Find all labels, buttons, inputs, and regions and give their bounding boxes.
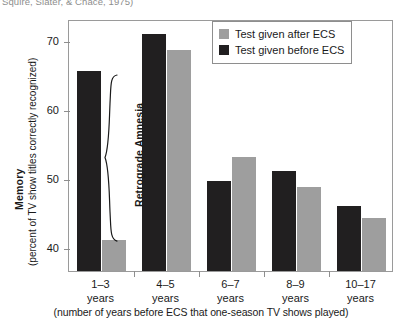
y-axis-title-sub: (percent of TV show titles correctly rec…: [28, 58, 38, 266]
x-tick-mark: [199, 271, 200, 277]
legend-item-before: Test given before ECS: [219, 42, 344, 58]
chart-legend: Test given after ECS Test given before E…: [212, 21, 352, 64]
legend-item-after: Test given after ECS: [219, 26, 344, 42]
y-tick-mark: [64, 111, 70, 112]
y-tick-mark: [64, 42, 70, 43]
x-category-label-line1: 1–3: [91, 278, 109, 290]
x-category-label-line1: 8–9: [286, 278, 304, 290]
y-tick-label: 60: [37, 104, 59, 116]
bar-after-ecs: [232, 157, 256, 271]
x-category-label-line1: 10–17: [345, 278, 376, 290]
x-tick-mark: [329, 271, 330, 277]
x-axis-title: (number of years before ECS that one-sea…: [0, 306, 402, 318]
y-axis-title-main: Memory: [14, 169, 25, 210]
annotation-label: Retrograde Amnesia: [133, 103, 145, 207]
bar-before-ecs: [207, 181, 231, 271]
bar-before-ecs: [337, 206, 361, 271]
x-category-label-line1: 6–7: [221, 278, 239, 290]
x-category-label: 10–17years: [321, 278, 401, 305]
y-tick-mark: [64, 180, 70, 181]
bar-after-ecs: [362, 218, 386, 271]
y-tick-mark: [64, 249, 70, 250]
x-tick-mark: [264, 271, 265, 277]
bar-before-ecs: [272, 171, 296, 271]
bar-after-ecs: [297, 187, 321, 271]
legend-label-after: Test given after ECS: [235, 28, 335, 40]
legend-swatch-before-icon: [219, 45, 229, 55]
legend-swatch-after-icon: [219, 29, 229, 39]
y-tick-label: 70: [37, 35, 59, 47]
bar-group: [142, 21, 191, 271]
x-category-label-line2: years: [321, 292, 401, 306]
y-tick-label: 50: [37, 173, 59, 185]
y-tick-label: 40: [37, 242, 59, 254]
retrograde-amnesia-annotation: Retrograde Amnesia: [103, 73, 149, 242]
legend-label-before: Test given before ECS: [235, 44, 344, 56]
x-category-label-line1: 4–5: [156, 278, 174, 290]
bar-before-ecs: [77, 71, 101, 271]
source-citation: Squire, Slater, & Chace, 1975): [2, 0, 133, 7]
y-axis-title: Memory (percent of TV show titles correc…: [0, 18, 34, 268]
x-tick-mark: [134, 271, 135, 277]
bar-after-ecs: [167, 50, 191, 271]
curly-brace-icon: [103, 73, 121, 242]
bar-after-ecs: [102, 240, 126, 271]
